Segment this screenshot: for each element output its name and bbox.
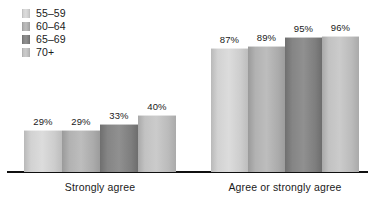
bar-chart-plot-area: 29% 29% 33% 40% 87% 89% [0, 0, 375, 203]
bar-slot: 29% [62, 31, 100, 172]
bar-group-strongly-agree: 29% 29% 33% 40% [24, 31, 176, 172]
bar[interactable]: 89% [248, 46, 285, 172]
bar-slot: 40% [138, 31, 176, 172]
bar-value-label: 29% [62, 116, 100, 128]
bar-slot: 33% [100, 31, 138, 172]
bar-value-label: 95% [285, 23, 322, 35]
bar-value-label: 96% [322, 22, 359, 34]
bar-value-label: 29% [24, 116, 62, 128]
bar[interactable]: 29% [24, 130, 62, 172]
bar[interactable]: 40% [138, 115, 176, 172]
bar-value-label: 89% [248, 32, 285, 44]
bar-value-label: 33% [100, 110, 138, 122]
bar-value-label: 87% [211, 34, 248, 46]
bar[interactable]: 87% [211, 48, 248, 172]
bar-slot: 96% [322, 31, 359, 172]
bar[interactable]: 95% [285, 37, 322, 172]
bar[interactable]: 33% [100, 124, 138, 172]
bar-slot: 87% [211, 31, 248, 172]
bar-value-label: 40% [138, 101, 176, 113]
bar-slot: 89% [248, 31, 285, 172]
bar-group-agree-or-strongly-agree: 87% 89% 95% 96% [211, 31, 359, 172]
bar[interactable]: 29% [62, 130, 100, 172]
bar-slot: 29% [24, 31, 62, 172]
category-label-strongly-agree: Strongly agree [24, 180, 176, 194]
bar-slot: 95% [285, 31, 322, 172]
category-label-agree-or-strongly-agree: Agree or strongly agree [206, 180, 364, 194]
bar[interactable]: 96% [322, 36, 359, 172]
